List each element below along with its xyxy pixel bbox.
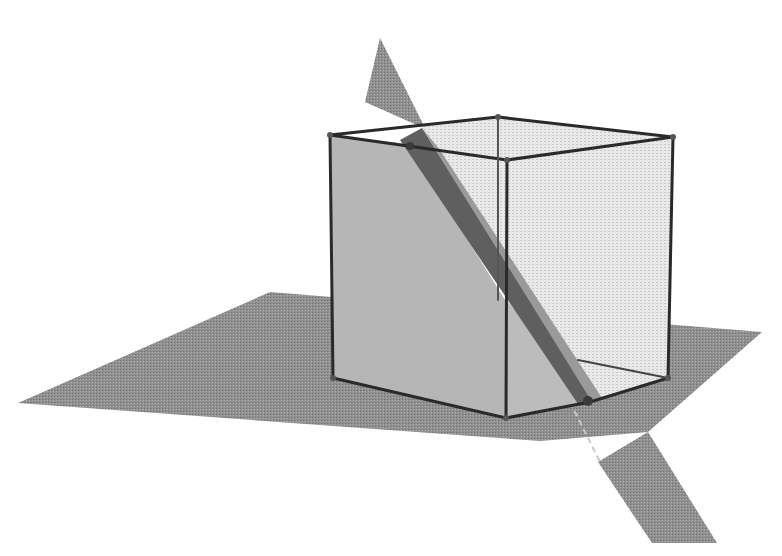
geometry-diagram: Cube cut by an oblique plane, resting on… bbox=[0, 0, 782, 556]
diagram-canvas bbox=[0, 0, 782, 556]
cutting-plane-upper-tip bbox=[365, 38, 425, 128]
cutting-plane-lower-strip bbox=[598, 432, 717, 543]
